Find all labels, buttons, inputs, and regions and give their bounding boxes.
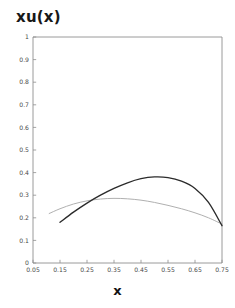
plot-area: 00.10.20.30.40.50.60.70.80.91 0.050.150.… xyxy=(0,0,235,308)
x-tick-label: 0.75 xyxy=(215,266,229,273)
x-tick-label: 0.65 xyxy=(188,266,202,273)
x-tick-label: 0.25 xyxy=(80,266,94,273)
y-tick-label: 0.5 xyxy=(19,146,29,153)
y-tick-label: 0.9 xyxy=(19,56,29,63)
y-tick-label: 0.7 xyxy=(19,101,29,108)
x-tick-label: 0.05 xyxy=(26,266,40,273)
x-tick-label: 0.55 xyxy=(161,266,175,273)
x-axis-ticks xyxy=(33,260,222,263)
axis-frame xyxy=(33,37,222,263)
y-tick-label: 0.1 xyxy=(19,237,29,244)
y-tick-label: 1 xyxy=(25,33,29,40)
x-axis-tick-labels: 0.050.150.250.350.450.550.650.75 xyxy=(26,266,229,273)
x-tick-label: 0.15 xyxy=(53,266,67,273)
chart-container: xu(x) 00.10.20.30.40.50.60.70.80.91 0.05… xyxy=(0,0,235,308)
y-axis-tick-labels: 00.10.20.30.40.50.60.70.80.91 xyxy=(19,33,29,266)
y-tick-label: 0.3 xyxy=(19,191,29,198)
y-axis-ticks xyxy=(33,37,36,263)
y-tick-label: 0.6 xyxy=(19,124,29,131)
x-axis-label: x xyxy=(0,283,235,298)
data-series-layer xyxy=(49,177,222,226)
x-tick-label: 0.45 xyxy=(134,266,148,273)
y-tick-label: 0.2 xyxy=(19,214,29,221)
y-tick-label: 0.4 xyxy=(19,169,29,176)
x-tick-label: 0.35 xyxy=(107,266,121,273)
y-tick-label: 0.8 xyxy=(19,78,29,85)
